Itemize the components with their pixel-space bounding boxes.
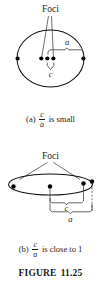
panel-b-caption-prefix: (b) [19,244,29,254]
panel-a-a-label: a [65,37,69,47]
panel-a-caption-numerator: c [39,111,45,119]
panel-a-diagram: Foci c a [0,0,101,110]
panel-b-focus-left-dot [11,184,15,188]
panel-a-focus-left-dot [39,56,43,60]
panel-b-caption-suffix: is close to 1 [42,244,82,254]
panel-b-a-label: a [68,214,72,224]
panel-a-focus-right-dot [51,56,55,60]
panel-a-caption: (a) c a is small [0,111,101,129]
panel-b-center-dot [48,184,52,188]
panel-b-foci-label: Foci [42,151,59,161]
panel-a-vertex-right-dot [81,56,85,60]
panel-b-caption: (b) c a is close to 1 [0,241,101,259]
panel-b-foci-leader-left [20,163,48,180]
panel-b-caption-fraction: c a [32,241,38,259]
panel-b-diagram: Foci c a [0,148,101,240]
panel-a-caption-prefix: (a) [26,114,35,124]
panel-b-a-brace [50,204,92,214]
panel-a-caption-fraction: c a [39,111,45,129]
panel-a-foci-label: Foci [42,4,59,14]
panel-a-c-label: c [49,69,53,79]
panel-a-vertex-left-dot [16,56,20,60]
panel-a-caption-suffix: is small [49,114,75,124]
figure-container: Foci c a (a) c a is small Foci [0,0,101,290]
panel-a-caption-denominator: a [39,121,45,129]
panel-b-vertex-right-dot [90,179,94,183]
panel-a-foci-leader-left [42,16,49,59]
panel-b-caption-numerator: c [32,241,38,249]
panel-b-caption-denominator: a [32,251,38,259]
figure-caption-prefix: FIGURE [18,268,56,278]
figure-caption: FIGURE11.25 [0,268,101,278]
panel-a-center-dot [45,56,49,60]
panel-b-focus-right-dot [81,181,85,185]
panel-a-foci-leader-right [52,16,54,59]
figure-caption-number: 11.25 [61,268,83,278]
panel-b-foci-leader-right [54,163,81,180]
